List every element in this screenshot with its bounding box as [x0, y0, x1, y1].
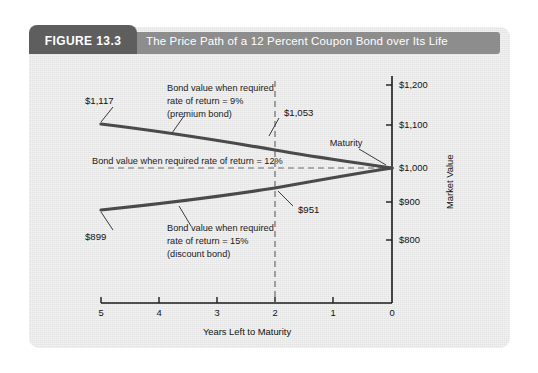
premium-year2-leader-line	[269, 118, 279, 136]
premium-bond-note: Bond value when required rate of return …	[167, 83, 274, 119]
x-tick-label-1: 1	[330, 307, 335, 318]
discount-bond-note: Bond value when required rate of return …	[167, 223, 274, 259]
maturity-label: Maturity	[330, 138, 363, 148]
premium-start-leader-line	[101, 107, 113, 122]
discount-start-leader-line	[101, 212, 113, 230]
premium-note-line-2: rate of return = 9%	[167, 96, 243, 106]
x-tick-label-4: 4	[156, 307, 161, 318]
discount-bond-curve	[101, 168, 392, 210]
x-tick-label-2: 2	[272, 307, 277, 318]
bond-price-path-chart: $1,200 $1,100 $1,000 $900 $800 Market Va…	[29, 54, 510, 348]
x-tick-label-3: 3	[214, 307, 219, 318]
x-axis-ticks	[101, 297, 333, 303]
discount-note-line-2: rate of return = 15%	[167, 236, 248, 246]
x-tick-label-5: 5	[98, 307, 103, 318]
y-tick-label-900: $900	[399, 196, 420, 207]
y-axis-ticks	[386, 85, 392, 240]
discount-year2-leader-line	[278, 191, 293, 206]
figure-number-tab: FIGURE 13.3	[29, 25, 137, 54]
discount-note-line-3: (discount bond)	[167, 249, 230, 259]
y-tick-label-1100: $1,100	[399, 119, 428, 130]
premium-year2-value-label: $1,053	[284, 107, 313, 118]
figure-container: FIGURE 13.3 The Price Path of a 12 Perce…	[0, 0, 538, 373]
y-axis-title: Market Value	[444, 154, 455, 209]
discount-note-line-1: Bond value when required	[167, 223, 274, 233]
x-axis-title: Years Left to Maturity	[203, 326, 292, 337]
premium-start-value-label: $1,117	[85, 95, 114, 106]
discount-year2-value-label: $951	[298, 204, 319, 215]
figure-title: The Price Path of a 12 Percent Coupon Bo…	[146, 35, 448, 47]
premium-note-line-3: (premium bond)	[167, 109, 232, 119]
discount-start-value-label: $899	[85, 231, 106, 242]
y-tick-label-1200: $1,200	[399, 79, 428, 90]
y-tick-label-800: $800	[399, 234, 420, 245]
x-tick-label-0: 0	[389, 307, 394, 318]
premium-note-line-1: Bond value when required	[167, 83, 274, 93]
y-tick-label-1000: $1,000	[399, 162, 428, 173]
figure-number-label: FIGURE 13.3	[45, 35, 121, 51]
par-bond-note: Bond value when required rate of return …	[92, 156, 283, 166]
